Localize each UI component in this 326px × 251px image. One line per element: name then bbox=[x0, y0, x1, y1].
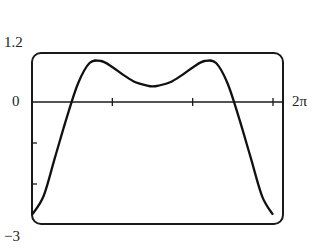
function-curve bbox=[32, 60, 273, 214]
y-zero-label: 0 bbox=[12, 93, 20, 110]
y-min-label: −3 bbox=[4, 228, 20, 245]
y-max-label: 1.2 bbox=[4, 34, 23, 51]
chart-plot bbox=[0, 0, 326, 251]
x-max-label: 2π bbox=[292, 93, 307, 110]
